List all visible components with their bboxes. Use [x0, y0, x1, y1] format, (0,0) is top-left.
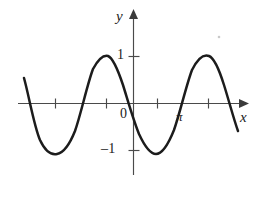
x-axis-label: x — [240, 110, 247, 125]
coordinate-plot — [0, 0, 258, 199]
y-tick-label-one: 1 — [117, 48, 124, 62]
x-axis-arrowhead — [239, 99, 249, 108]
origin-label: 0 — [120, 107, 127, 121]
graph-figure: y x 1 –1 0 π — [0, 0, 258, 199]
page-artifact-speck — [218, 36, 221, 39]
y-axis-arrowhead — [129, 9, 138, 19]
y-tick-label-negative-one: –1 — [101, 142, 115, 156]
y-axis-label: y — [116, 9, 123, 24]
sine-curve — [24, 56, 238, 155]
x-tick-label-pi: π — [176, 110, 183, 123]
